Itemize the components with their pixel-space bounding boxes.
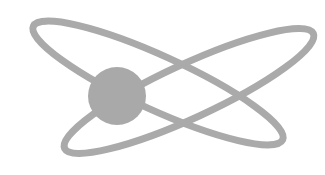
nucleus-circle bbox=[88, 67, 146, 125]
atom-icon bbox=[0, 0, 325, 175]
atom-figure bbox=[0, 0, 325, 175]
